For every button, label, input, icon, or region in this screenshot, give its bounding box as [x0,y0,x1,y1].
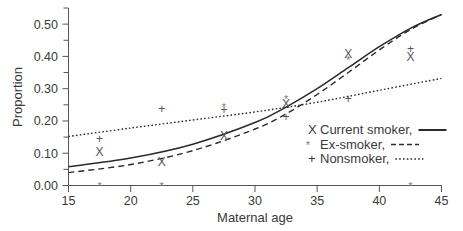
x-tick-label: 25 [186,194,200,208]
data-marker-plus: + [345,92,352,106]
x-tick-label: 40 [372,194,386,208]
legend-marker-star: * [306,139,311,151]
fitted-curves [69,14,442,172]
data-marker-star: * [97,180,102,192]
data-marker-x: X [96,145,104,159]
legend-marker-x: X [308,122,317,137]
y-tick-labels: 0.000.100.200.300.400.50 [34,18,58,193]
data-marker-x: X [158,155,166,169]
y-tick-label: 0.10 [34,147,58,161]
chart-legend: XCurrent smoker,*Ex-smoker,+Nonsmoker, [306,122,447,166]
data-marker-plus: + [407,42,414,56]
y-tick-marks [63,8,69,186]
x-tick-marks [69,186,442,193]
data-marker-plus: + [283,110,290,124]
y-axis: 0.000.100.200.300.400.50 Proportion [10,8,69,193]
data-marker-plus: + [158,102,165,116]
y-tick-label: 0.00 [34,179,58,193]
y-tick-label: 0.20 [34,114,58,128]
data-marker-plus: + [96,132,103,146]
data-marker-star: * [160,180,165,192]
x-tick-label: 35 [310,194,324,208]
legend-label: Current smoker, [320,122,412,137]
x-tick-label: 15 [62,194,76,208]
fit-curve-current-smoker [69,14,442,166]
x-tick-label: 45 [435,194,449,208]
x-axis-title: Maternal age [217,210,293,225]
y-tick-label: 0.30 [34,82,58,96]
x-axis: 15202530354045 Maternal age [62,186,449,226]
y-tick-label: 0.50 [34,18,58,32]
data-marker-star: * [408,180,413,192]
data-marker-plus: + [220,103,227,117]
legend-label: Nonsmoker, [320,151,389,166]
data-marker-star: * [284,93,289,105]
chart-canvas: 0.000.100.200.300.400.50 Proportion 1520… [0,0,463,231]
data-marker-x: X [220,129,228,143]
legend-marker-plus: + [308,151,316,166]
fit-curve-ex-smoker [69,14,442,172]
data-markers: XXXXXX******++++++ [96,42,415,192]
y-axis-title: Proportion [10,67,25,127]
y-tick-label: 0.40 [34,50,58,64]
x-tick-labels: 15202530354045 [62,194,449,208]
data-marker-star: * [346,54,351,66]
legend-label: Ex-smoker, [320,137,385,152]
x-tick-label: 30 [248,194,262,208]
x-tick-label: 20 [124,194,138,208]
chart-figure: 0.000.100.200.300.400.50 Proportion 1520… [0,0,463,231]
